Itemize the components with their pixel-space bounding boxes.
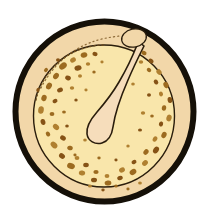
pigment-spot: [150, 115, 154, 118]
figure-root: [0, 0, 209, 218]
pigment-spot: [62, 110, 66, 113]
pigment-spot: [83, 163, 89, 167]
pigment-spot: [138, 128, 142, 131]
pigment-spot: [114, 185, 118, 188]
pigment-spot: [70, 86, 74, 90]
pigment-spot: [83, 139, 87, 142]
pigment-spot: [78, 74, 82, 77]
circular-cross-section-diagram: [0, 0, 209, 218]
pigment-spot: [86, 62, 90, 66]
pigment-spot: [56, 58, 60, 61]
pigment-spot: [75, 156, 80, 160]
pigment-spot: [84, 89, 87, 92]
pigment-spot: [126, 188, 129, 191]
pigment-spot: [65, 125, 69, 128]
pigment-spot: [93, 170, 98, 174]
pigment-spot: [131, 83, 135, 86]
pigment-spot: [114, 159, 117, 162]
pigment-spot: [141, 111, 145, 115]
pigment-spot: [91, 178, 97, 183]
pigment-spot: [101, 189, 104, 192]
pigment-spot: [105, 174, 110, 178]
pigment-spot: [138, 181, 142, 184]
pigment-spot: [100, 61, 103, 64]
pigment-spot: [92, 71, 95, 74]
pigment-spot: [147, 93, 151, 96]
pigment-spot: [73, 154, 76, 157]
pigment-spot: [139, 60, 143, 64]
pigment-spot: [126, 145, 129, 148]
pigment-spot: [88, 184, 92, 187]
pigment-spot: [50, 112, 55, 116]
pigment-spot: [74, 99, 77, 102]
pigment-spot: [97, 157, 100, 160]
